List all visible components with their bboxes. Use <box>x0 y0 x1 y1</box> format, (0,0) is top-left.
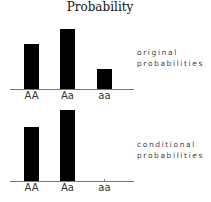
x-tick-label: AA <box>17 182 47 193</box>
x-tick-label: Aa <box>53 182 83 193</box>
x-tick-label: Aa <box>53 90 83 101</box>
x-tick-label: aa <box>90 90 120 101</box>
series-label-line: probabilities <box>137 150 204 161</box>
bar-AA <box>24 44 39 89</box>
chart-title: Probability <box>0 0 200 14</box>
x-tick-label: AA <box>17 90 47 101</box>
bar-aa <box>97 69 112 89</box>
bar-Aa <box>60 29 75 89</box>
series-label-line: conditional <box>137 139 204 150</box>
bar-AA <box>24 127 39 181</box>
series-label-line: original <box>137 47 204 58</box>
series-label: originalprobabilities <box>137 47 204 69</box>
series-label-line: probabilities <box>137 58 204 69</box>
bar-Aa <box>60 110 75 181</box>
bar-aa-zero <box>104 179 105 181</box>
series-label: conditionalprobabilities <box>137 139 204 161</box>
x-tick-label: aa <box>90 182 120 193</box>
